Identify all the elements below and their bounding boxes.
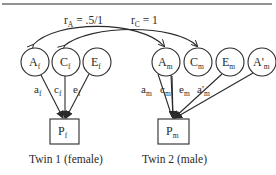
twin2-label: Twin 2 (male)	[142, 153, 207, 166]
path-label-em: em	[179, 83, 190, 98]
path-em	[174, 74, 222, 118]
path-label-ef: ef	[73, 83, 81, 98]
path-label-am: am	[141, 83, 152, 98]
path-label-cm: cm	[160, 83, 171, 98]
path-cm	[172, 76, 173, 118]
phenotype-box-Pf: Pf	[50, 119, 79, 144]
latent-node-Em: Em	[216, 48, 244, 76]
correlation-arc-C	[64, 30, 197, 47]
path-label-af: af	[34, 83, 42, 98]
latent-node-Cf: Cf	[52, 48, 80, 76]
phenotype-box-Pm: Pm	[158, 119, 189, 144]
twin1-label: Twin 1 (female)	[29, 153, 103, 166]
latent-node-Af: Af	[21, 48, 49, 76]
latent-node-Am: Am	[152, 48, 180, 76]
latent-node-Cm: Cm	[184, 48, 212, 76]
latent-node-A-prime-m: A'm	[248, 48, 276, 76]
latent-node-Ef: Ef	[83, 48, 111, 76]
path-label-cf: cf	[54, 83, 62, 98]
twin-model-diagram: rA = .5/1 rC = 1 Af Cf Ef Am Cm Em A'm a…	[0, 0, 276, 175]
correlation-label-rC: rC = 1	[131, 14, 158, 29]
